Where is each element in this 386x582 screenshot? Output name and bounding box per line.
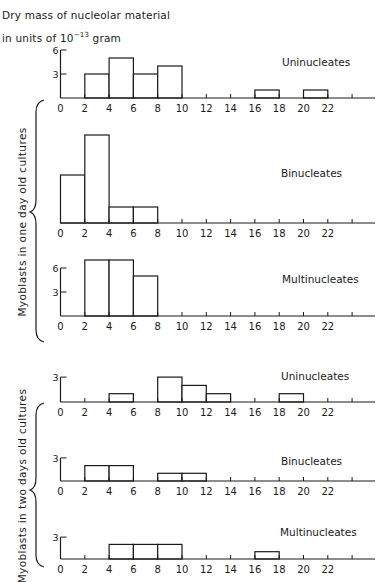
x-tick-label: 12: [200, 228, 213, 239]
x-tick-label: 22: [321, 407, 334, 418]
x-tick-label: 20: [297, 564, 310, 575]
x-tick-label: 2: [82, 564, 88, 575]
histogram-bar: [109, 394, 133, 402]
panel-label: Binucleates: [281, 455, 342, 467]
x-tick-label: 22: [321, 564, 334, 575]
x-tick-label: 0: [57, 407, 63, 418]
histogram-panel: 02468101214161820223Multinucleates: [52, 526, 375, 575]
x-tick-label: 8: [155, 407, 161, 418]
x-tick-label: 16: [249, 407, 262, 418]
group-label-two-days: Myoblasts in two days old cultures: [16, 389, 28, 582]
histogram-bar: [85, 260, 109, 316]
x-tick-label: 0: [57, 486, 63, 497]
histogram-bar: [109, 260, 133, 316]
x-tick-label: 2: [82, 228, 88, 239]
histogram-figure: Myoblasts in one day old cultures Myobla…: [0, 0, 386, 582]
x-tick-label: 14: [224, 228, 237, 239]
group-brace-one-day: [30, 100, 44, 342]
histogram-bar: [109, 466, 133, 481]
x-tick-label: 20: [297, 407, 310, 418]
histogram-bar: [279, 394, 303, 402]
x-tick-label: 14: [224, 564, 237, 575]
x-tick-label: 12: [200, 564, 213, 575]
x-tick-label: 16: [249, 486, 262, 497]
x-tick-label: 22: [321, 321, 334, 332]
histogram-bar: [61, 175, 85, 223]
x-tick-label: 4: [106, 564, 112, 575]
x-tick-label: 6: [130, 564, 136, 575]
x-tick-label: 2: [82, 486, 88, 497]
y-tick-label: 3: [52, 287, 58, 298]
x-tick-label: 16: [249, 564, 262, 575]
x-tick-label: 18: [273, 564, 286, 575]
group-label-one-day: Myoblasts in one day old cultures: [16, 127, 28, 316]
x-tick-label: 0: [57, 103, 63, 114]
x-tick-label: 22: [321, 103, 334, 114]
x-tick-label: 12: [200, 103, 213, 114]
panel-label: Binucleates: [281, 167, 342, 179]
x-tick-label: 6: [130, 103, 136, 114]
histogram-bar: [85, 74, 109, 98]
histogram-panel: 024681012141618202236Uninucleates: [52, 45, 375, 114]
histogram-bar: [133, 544, 157, 559]
y-tick-label: 3: [52, 453, 58, 464]
histogram-bar: [109, 58, 133, 98]
x-tick-label: 22: [321, 228, 334, 239]
x-tick-label: 0: [57, 321, 63, 332]
histogram-bar: [206, 394, 230, 402]
x-tick-label: 20: [297, 486, 310, 497]
x-tick-label: 8: [155, 228, 161, 239]
histogram-bar: [255, 90, 279, 98]
x-tick-label: 10: [176, 228, 189, 239]
x-tick-label: 12: [200, 407, 213, 418]
x-tick-label: 2: [82, 103, 88, 114]
x-tick-label: 4: [106, 321, 112, 332]
histogram-bar: [109, 544, 133, 559]
x-tick-label: 16: [249, 321, 262, 332]
histogram-bar: [158, 544, 182, 559]
x-tick-label: 4: [106, 486, 112, 497]
x-tick-label: 14: [224, 407, 237, 418]
x-tick-label: 6: [130, 321, 136, 332]
x-tick-label: 10: [176, 407, 189, 418]
histogram-bar: [182, 473, 206, 481]
x-tick-label: 10: [176, 486, 189, 497]
panel-label: Uninucleates: [281, 370, 349, 382]
x-tick-label: 8: [155, 321, 161, 332]
x-tick-label: 16: [249, 103, 262, 114]
histogram-panel: 024681012141618202236Multinucleates: [52, 260, 375, 332]
x-tick-label: 10: [176, 564, 189, 575]
histogram-bar: [133, 74, 157, 98]
x-tick-label: 22: [321, 486, 334, 497]
x-tick-label: 0: [57, 228, 63, 239]
histogram-bar: [133, 207, 157, 223]
x-tick-label: 14: [224, 486, 237, 497]
x-tick-label: 18: [273, 407, 286, 418]
x-tick-label: 6: [130, 486, 136, 497]
histogram-bar: [158, 66, 182, 98]
x-tick-label: 14: [224, 103, 237, 114]
panel-label: Multinucleates: [280, 526, 357, 538]
x-tick-label: 6: [130, 228, 136, 239]
panels: 024681012141618202236Uninucleates0246810…: [52, 45, 375, 575]
x-tick-label: 4: [106, 407, 112, 418]
histogram-bar: [182, 385, 206, 402]
histogram-bar: [85, 466, 109, 481]
histogram-bar: [158, 377, 182, 402]
x-tick-label: 18: [273, 486, 286, 497]
x-tick-label: 8: [155, 103, 161, 114]
panel-label: Uninucleates: [282, 56, 350, 68]
y-tick-label: 3: [52, 372, 58, 383]
histogram-bar: [255, 552, 279, 559]
x-tick-label: 12: [200, 321, 213, 332]
x-tick-label: 2: [82, 407, 88, 418]
panel-label: Multinucleates: [282, 273, 359, 285]
x-tick-label: 10: [176, 321, 189, 332]
histogram-bar: [158, 473, 182, 481]
histogram-bar: [85, 135, 109, 223]
x-tick-label: 18: [273, 228, 286, 239]
x-tick-label: 20: [297, 103, 310, 114]
y-tick-label: 3: [52, 69, 58, 80]
x-tick-label: 18: [273, 321, 286, 332]
histogram-panel: 02468101214161820223Binucleates: [52, 453, 375, 497]
